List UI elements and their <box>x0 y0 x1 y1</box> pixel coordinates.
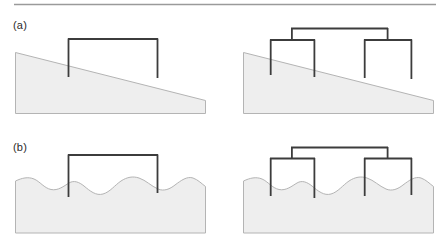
panel-b-group <box>16 147 434 233</box>
figure-container: (a) (b) <box>0 0 448 246</box>
panel-label-b: (b) <box>13 141 27 153</box>
panel-a-group <box>16 28 434 114</box>
inclined-plane-substrate-right <box>244 53 434 114</box>
figure-canvas <box>0 0 448 246</box>
inclined-plane-substrate-left <box>16 53 206 114</box>
wavy-substrate-left <box>16 177 206 233</box>
panel-label-a: (a) <box>13 19 27 31</box>
wavy-substrate-right <box>244 177 434 233</box>
